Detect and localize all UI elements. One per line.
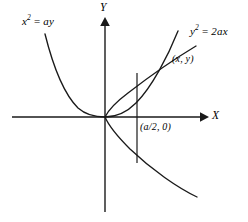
y-axis-label: Y [100,2,107,14]
intersection-point-label: (x, y) [172,54,194,64]
curve-label-y-equals: = [202,25,208,37]
geometry-figure: x2 = ay y2 = 2ax (x, y) (a/2, 0) Y X [0,0,248,222]
y-axis-arrowhead [100,17,110,26]
x-axis-label: X [212,110,219,122]
curve-label-x-exponent: 2 [27,13,31,22]
x-axis-arrowhead [200,112,209,122]
curve-label-x-squared-equals-ay: x2 = ay [22,16,54,27]
curve-label-y-exponent: 2 [195,23,199,32]
curve-label-x-rhs: ay [43,15,54,27]
curve-label-y-rhs: 2ax [211,25,227,37]
curve-x-squared-equals-ay [45,31,178,117]
curve-label-y-squared-equals-2ax: y2 = 2ax [190,26,228,37]
focus-point-label: (a/2, 0) [140,122,171,132]
curve-label-x-equals: = [34,15,40,27]
